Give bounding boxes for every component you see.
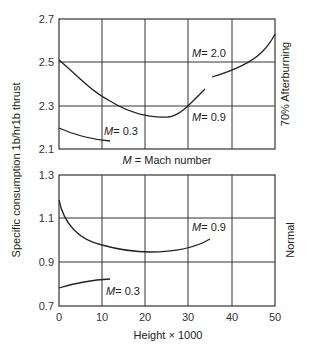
x-tick: 50 — [269, 311, 281, 323]
label-bottom-m03: M= 0.3 — [106, 285, 140, 297]
bottom-plot-frame — [59, 175, 275, 306]
bottom-panel: 1.3 1.1 0.9 0.7 0 10 20 30 40 50 M= 0.3 … — [39, 169, 296, 323]
chart-canvas: 2.7 2.5 2.3 2.1 M= 0.3 M= 0.9 M= 2.0 70%… — [0, 0, 317, 356]
y-tick: 2.1 — [39, 143, 54, 155]
x-tick: 20 — [139, 311, 151, 323]
y-tick: 2.3 — [39, 100, 54, 112]
mach-note: M = Mach number — [123, 154, 212, 166]
label-top-m20: M= 2.0 — [192, 47, 226, 59]
label-bottom-m09: M= 0.9 — [192, 221, 226, 233]
x-tick: 10 — [96, 311, 108, 323]
x-axis-label: Height × 1000 — [134, 329, 203, 341]
y-tick: 2.5 — [39, 56, 54, 68]
bottom-side-label: Normal — [284, 222, 296, 257]
bottom-grid — [59, 175, 275, 306]
y-tick: 1.3 — [39, 169, 54, 181]
top-grid — [59, 19, 275, 149]
y-axis-label: Specific consumption 1b/hr1b thrust — [10, 83, 22, 258]
bottom-curve-m09 — [59, 200, 210, 252]
x-tick: 30 — [182, 311, 194, 323]
top-curve-m09 — [59, 60, 205, 117]
label-top-m09: M= 0.9 — [192, 111, 226, 123]
top-panel: 2.7 2.5 2.3 2.1 M= 0.3 M= 0.9 M= 2.0 70%… — [39, 13, 291, 155]
y-tick: 1.1 — [39, 212, 54, 224]
top-side-label: 70% Afterburning — [279, 42, 291, 126]
x-tick: 0 — [56, 311, 62, 323]
top-y-ticks: 2.7 2.5 2.3 2.1 — [39, 13, 54, 155]
x-tick: 40 — [226, 311, 238, 323]
bottom-y-ticks: 1.3 1.1 0.9 0.7 — [39, 169, 54, 312]
label-top-m03: M= 0.3 — [104, 125, 138, 137]
top-plot-frame — [59, 19, 275, 149]
y-tick: 0.9 — [39, 256, 54, 268]
x-ticks: 0 10 20 30 40 50 — [56, 311, 281, 323]
y-tick: 0.7 — [39, 300, 54, 312]
y-tick: 2.7 — [39, 13, 54, 25]
